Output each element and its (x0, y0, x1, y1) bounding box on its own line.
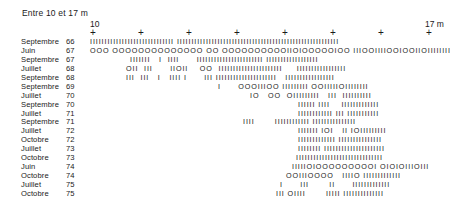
depth-range-title: Entre 10 et 17 m (22, 8, 88, 18)
row-year: 75 (66, 190, 74, 199)
table-row: Octobre75III OIIII IIIII IIIIIIIIIIIIII (0, 190, 445, 199)
row-month: Octobre (21, 190, 49, 199)
tick-mark-icon: + (426, 28, 432, 38)
observation-table: Septembre66IIIIIIIIIIIIIIIIIIIIIIIIIIIII… (0, 38, 445, 199)
row-observation-pattern: III OIIII IIIII IIIIIIIIIIIIII (276, 190, 384, 199)
tick-mark-icon: + (378, 28, 384, 38)
